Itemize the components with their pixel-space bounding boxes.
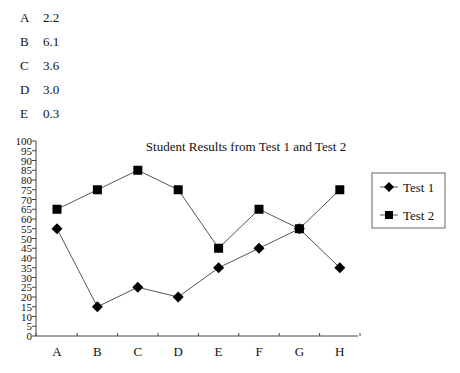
series-line-test-1	[57, 229, 340, 307]
x-tick-label: G	[295, 344, 304, 359]
y-tick-label: 100	[16, 135, 33, 147]
square-marker-icon	[385, 211, 393, 219]
chart-title: Student Results from Test 1 and Test 2	[146, 139, 346, 154]
diamond-marker-icon	[132, 282, 143, 293]
square-marker-icon	[174, 185, 183, 194]
x-tick-label: A	[52, 344, 62, 359]
legend-label: Test 2	[403, 208, 434, 223]
series-markers	[52, 166, 346, 313]
diamond-marker-icon	[52, 223, 63, 234]
diamond-marker-icon	[92, 301, 103, 312]
x-tick-label: F	[255, 344, 262, 359]
x-axis: ABCDEFGH	[36, 333, 360, 359]
square-marker-icon	[214, 244, 223, 253]
square-marker-icon	[93, 185, 102, 194]
x-tick-label: D	[174, 344, 183, 359]
diamond-marker-icon	[173, 292, 184, 303]
diamond-marker-icon	[254, 243, 265, 254]
x-tick-label: E	[215, 344, 223, 359]
square-marker-icon	[295, 224, 304, 233]
legend: Test 1 Test 2	[372, 173, 445, 228]
x-tick-label: B	[93, 344, 102, 359]
series-line-test-2	[57, 170, 340, 248]
y-axis: 0510152025303540455055606570758085909510…	[16, 135, 37, 342]
square-marker-icon	[133, 166, 142, 175]
legend-label: Test 1	[403, 180, 434, 195]
x-tick-label: C	[133, 344, 142, 359]
line-chart: Student Results from Test 1 and Test 2 0…	[0, 0, 460, 373]
square-marker-icon	[255, 205, 264, 214]
square-marker-icon	[53, 205, 62, 214]
square-marker-icon	[335, 185, 344, 194]
diamond-marker-icon	[213, 262, 224, 273]
x-tick-label: H	[335, 344, 344, 359]
